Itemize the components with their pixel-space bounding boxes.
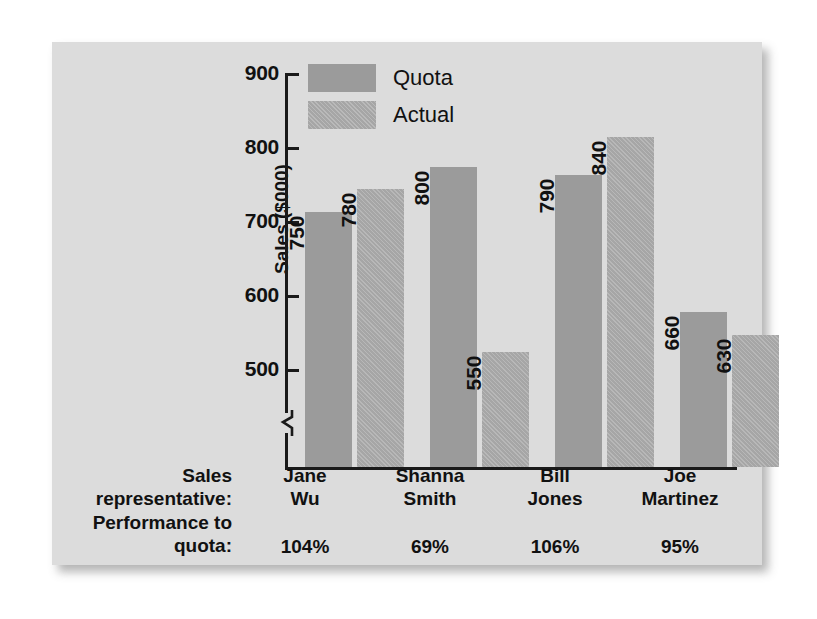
name-line2: Wu bbox=[235, 487, 375, 510]
y-tick-label-800: 800 bbox=[209, 135, 279, 159]
bar-actual-jane-wu[interactable]: 780 bbox=[357, 189, 404, 467]
legend-item-quota[interactable]: Quota bbox=[308, 64, 454, 92]
bar-actual-shanna-smith[interactable]: 550 bbox=[482, 352, 529, 467]
name-line1: Bill bbox=[485, 464, 625, 487]
sales-rep-label-line2: representative: bbox=[62, 487, 232, 510]
chart-panel: Sales ($000) 900 800 700 600 500 bbox=[52, 42, 762, 565]
bar-value-label: 840 bbox=[587, 126, 611, 190]
bar-value-label: 750 bbox=[285, 201, 309, 265]
bar-value-label: 780 bbox=[337, 178, 361, 242]
plot-area: Sales ($000) 900 800 700 600 500 bbox=[233, 58, 738, 470]
bar-value-label: 800 bbox=[410, 156, 434, 220]
sales-rep-label-line1: Sales bbox=[62, 464, 232, 487]
table-percent-jane-wu: 104% bbox=[235, 536, 375, 558]
bar-quota-bill-jones[interactable]: 790 bbox=[555, 175, 602, 467]
y-tick-label-700: 700 bbox=[209, 209, 279, 233]
table-name-shanna-smith: Shanna Smith bbox=[360, 464, 500, 510]
legend-item-actual[interactable]: Actual bbox=[308, 101, 454, 129]
axis-break-icon bbox=[280, 410, 296, 436]
name-line2: Jones bbox=[485, 487, 625, 510]
y-tick-800 bbox=[288, 147, 299, 150]
bar-value-label: 660 bbox=[660, 301, 684, 365]
y-tick-500 bbox=[288, 369, 299, 372]
name-line1: Jane bbox=[235, 464, 375, 487]
name-line1: Joe bbox=[610, 464, 750, 487]
performance-label-line2: quota: bbox=[62, 534, 232, 557]
y-tick-label-900: 900 bbox=[209, 61, 279, 85]
table-name-bill-jones: Bill Jones bbox=[485, 464, 625, 510]
legend-swatch-actual bbox=[308, 101, 376, 129]
legend: Quota Actual bbox=[308, 64, 454, 138]
y-tick-600 bbox=[288, 295, 299, 298]
table-name-joe-martinez: Joe Martinez bbox=[610, 464, 750, 510]
performance-label-line1: Performance to bbox=[62, 511, 232, 534]
y-tick-label-600: 600 bbox=[209, 283, 279, 307]
table-percent-joe-martinez: 95% bbox=[610, 536, 750, 558]
table-percent-bill-jones: 106% bbox=[485, 536, 625, 558]
table-name-jane-wu: Jane Wu bbox=[235, 464, 375, 510]
bar-actual-bill-jones[interactable]: 840 bbox=[607, 137, 654, 467]
legend-label-actual: Actual bbox=[393, 102, 454, 128]
bar-value-label: 790 bbox=[535, 164, 559, 228]
bar-value-label: 630 bbox=[712, 324, 736, 388]
name-line2: Martinez bbox=[610, 487, 750, 510]
bar-quota-jane-wu[interactable]: 750 bbox=[305, 212, 352, 467]
y-tick-900 bbox=[288, 73, 299, 76]
name-line2: Smith bbox=[360, 487, 500, 510]
bar-quota-shanna-smith[interactable]: 800 bbox=[430, 167, 477, 467]
name-line1: Shanna bbox=[360, 464, 500, 487]
y-tick-label-500: 500 bbox=[209, 357, 279, 381]
legend-swatch-quota bbox=[308, 64, 376, 92]
chart-page: Sales ($000) 900 800 700 600 500 bbox=[0, 0, 817, 619]
bar-actual-joe-martinez[interactable]: 630 bbox=[732, 335, 779, 467]
table-row-labels: Sales representative: Performance to quo… bbox=[62, 464, 232, 557]
bar-value-label: 550 bbox=[462, 341, 486, 405]
summary-table: Sales representative: Performance to quo… bbox=[52, 460, 762, 560]
legend-label-quota: Quota bbox=[393, 65, 453, 91]
table-percent-shanna-smith: 69% bbox=[360, 536, 500, 558]
